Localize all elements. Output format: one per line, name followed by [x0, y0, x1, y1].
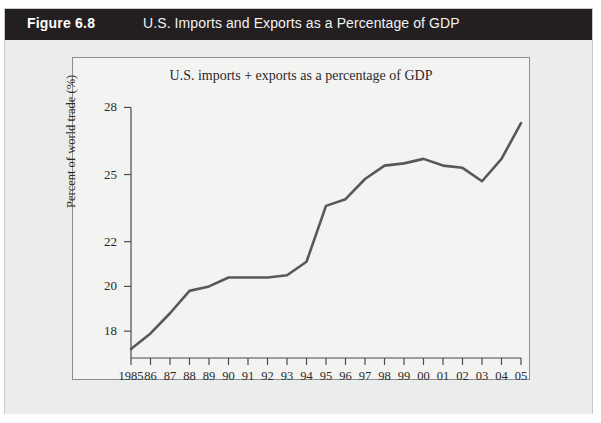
y-tick-label: 18: [83, 324, 117, 337]
chart-canvas: [73, 58, 531, 381]
figure-title: U.S. Imports and Exports as a Percentage…: [143, 15, 460, 31]
y-tick-label: 22: [83, 235, 117, 248]
x-tick-marks: [131, 358, 521, 365]
data-series-line: [131, 123, 521, 349]
figure-page: Figure 6.8 U.S. Imports and Exports as a…: [0, 0, 601, 423]
plot-area: U.S. imports + exports as a percentage o…: [72, 57, 530, 380]
y-tick-label: 28: [83, 100, 117, 113]
y-tick-label: 20: [83, 279, 117, 292]
y-tick-marks: [124, 107, 131, 331]
x-tick-label: 05: [499, 370, 543, 383]
axes-group: [131, 107, 521, 358]
y-tick-label: 25: [83, 168, 117, 181]
figure-number-label: Figure 6.8: [27, 15, 95, 31]
